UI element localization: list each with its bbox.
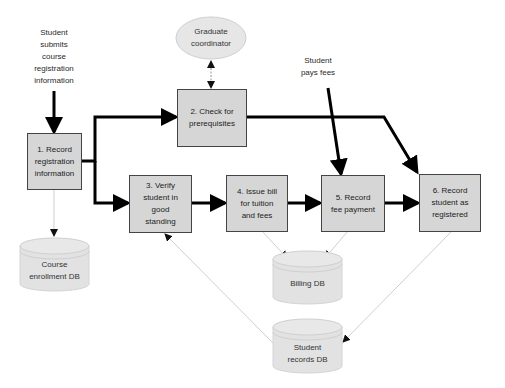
process-box-1: 1. Record registration information (27, 133, 82, 190)
flow-2-to-6-arrow (247, 117, 417, 172)
payment-flow-arrow (328, 88, 341, 174)
flow-1-to-2-arrow (81, 117, 176, 161)
graduate-coordinator-label: Graduate coordinator (176, 17, 246, 59)
billing-db-label: Billing DB (273, 272, 342, 296)
process-box-2: 2. Check for prerequisites (177, 89, 247, 147)
process-box-3: 3. Verify student in good standing (129, 175, 192, 233)
process-box-5: 5. Record fee payment (321, 175, 385, 232)
process-box-6: 6. Record student as registered (419, 174, 481, 232)
student-db-to-box3-line (165, 234, 274, 344)
student-records-db-label: Student records DB (273, 339, 342, 369)
course-enrollment-db-label: Course enrollment DB (20, 256, 89, 286)
process-box-4: 4. Issue bill for tuition and fees (226, 175, 288, 232)
student-submits-label: Student submits course registration info… (22, 27, 86, 87)
student-pays-label: Student pays fees (285, 55, 351, 79)
box6-to-student-db-line (343, 231, 452, 342)
flow-1-to-3-arrow (95, 161, 128, 203)
